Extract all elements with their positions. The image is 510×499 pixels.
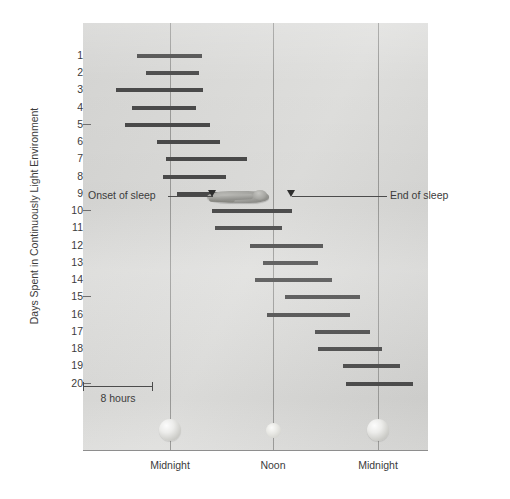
sleep-bar-day-13 bbox=[263, 261, 318, 265]
sun-icon bbox=[262, 419, 284, 441]
x-tick-midnight-2: Midnight bbox=[333, 459, 423, 471]
sleep-bar-day-19 bbox=[343, 364, 400, 368]
y-tick-14: 14 bbox=[61, 274, 83, 285]
y-tick-15: 15 bbox=[61, 291, 83, 302]
sleep-bar-day-1 bbox=[137, 54, 202, 58]
y-axis-title: Days Spent in Continuously Light Environ… bbox=[28, 86, 40, 346]
y-tick-11: 11 bbox=[61, 222, 83, 233]
sleep-bar-day-11 bbox=[215, 226, 282, 230]
end-of-sleep-leader bbox=[292, 196, 387, 197]
y-tick-6: 6 bbox=[61, 136, 83, 147]
sleep-bar-day-3 bbox=[116, 88, 203, 92]
moon-icon bbox=[367, 419, 389, 441]
y-tick-4: 4 bbox=[61, 102, 83, 113]
sleep-bar-day-15 bbox=[285, 295, 360, 299]
sleep-bar-day-6 bbox=[157, 140, 220, 144]
gridline-noon bbox=[273, 23, 274, 450]
y-tick-mark-20 bbox=[83, 383, 91, 384]
y-tick-10: 10 bbox=[61, 205, 83, 216]
y-tick-5: 5 bbox=[61, 119, 83, 130]
scale-bar-cap-right bbox=[152, 382, 153, 391]
sleep-actogram-figure: 1 2 3 4 5 6 7 8 9 10 11 12 13 14 15 16 1… bbox=[0, 0, 510, 499]
y-axis-tick-labels: 1 2 3 4 5 6 7 8 9 10 11 12 13 14 15 16 1… bbox=[40, 0, 83, 499]
x-tick-noon: Noon bbox=[228, 459, 318, 471]
onset-of-sleep-label: Onset of sleep bbox=[88, 189, 156, 201]
onset-of-sleep-arrow bbox=[208, 190, 216, 197]
scale-bar-label: 8 hours bbox=[83, 392, 153, 404]
sleep-bar-day-17 bbox=[315, 330, 370, 334]
y-tick-12: 12 bbox=[61, 240, 83, 251]
y-tick-9: 9 bbox=[61, 188, 83, 199]
y-tick-mark-15 bbox=[83, 296, 91, 297]
sleep-bar-day-12 bbox=[250, 244, 323, 248]
y-tick-mark-5 bbox=[83, 124, 91, 125]
y-tick-mark-10 bbox=[83, 210, 91, 211]
end-of-sleep-arrow bbox=[287, 190, 295, 197]
sleep-bar-day-5 bbox=[125, 123, 210, 127]
y-tick-18: 18 bbox=[61, 343, 83, 354]
sleep-bar-day-2 bbox=[146, 71, 199, 75]
sleep-bar-day-18 bbox=[318, 347, 382, 351]
x-tick-midnight-1: Midnight bbox=[125, 459, 215, 471]
sleeper-head bbox=[253, 190, 267, 200]
y-tick-16: 16 bbox=[61, 309, 83, 320]
sleep-bar-day-16 bbox=[267, 313, 350, 317]
onset-of-sleep-leader bbox=[168, 196, 213, 197]
y-tick-1: 1 bbox=[61, 50, 83, 61]
scale-bar bbox=[83, 386, 153, 387]
y-tick-7: 7 bbox=[61, 153, 83, 164]
sun-disc bbox=[266, 423, 281, 438]
sleep-bar-day-4 bbox=[132, 106, 196, 110]
sleep-bar-day-8 bbox=[163, 175, 226, 179]
sleep-bar-day-20 bbox=[346, 382, 413, 386]
y-tick-2: 2 bbox=[61, 67, 83, 78]
sleep-bar-day-14 bbox=[255, 278, 332, 282]
y-tick-3: 3 bbox=[61, 84, 83, 95]
sleep-bar-day-10 bbox=[212, 209, 292, 213]
y-tick-17: 17 bbox=[61, 326, 83, 337]
y-tick-19: 19 bbox=[61, 360, 83, 371]
y-tick-20: 20 bbox=[61, 378, 83, 389]
scale-bar-cap-left bbox=[83, 382, 84, 391]
y-tick-13: 13 bbox=[61, 257, 83, 268]
end-of-sleep-label: End of sleep bbox=[390, 189, 448, 201]
sleep-bar-day-7 bbox=[166, 157, 247, 161]
y-tick-8: 8 bbox=[61, 171, 83, 182]
moon-icon bbox=[159, 419, 181, 441]
